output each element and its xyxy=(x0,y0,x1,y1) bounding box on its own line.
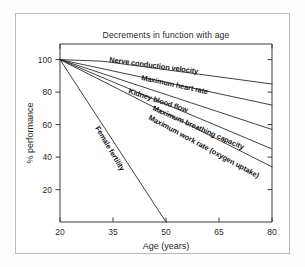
y-axis-title: % performance xyxy=(25,102,35,163)
y-tick-label-20: 20 xyxy=(43,185,53,195)
series-label-maximum-work-rate: Maximum work rate (oxygen uptake) xyxy=(147,113,261,180)
y-tick-label-60: 60 xyxy=(43,120,53,130)
x-tick-label-20: 20 xyxy=(55,227,65,237)
x-tick-label-80: 80 xyxy=(267,227,277,237)
x-tick-label-35: 35 xyxy=(108,227,118,237)
series-label-female-fertility: Female fertility xyxy=(93,124,127,173)
y-tick-label-100: 100 xyxy=(38,55,52,65)
x-axis-title: Age (years) xyxy=(143,241,190,251)
y-tick-label-80: 80 xyxy=(43,87,53,97)
x-tick-label-50: 50 xyxy=(161,227,171,237)
age-decrements-line-chart: 100 80 60 40 20 20 35 50 65 80 Age (year… xyxy=(0,0,305,267)
y-tick-label-40: 40 xyxy=(43,152,53,162)
x-tick-label-65: 65 xyxy=(214,227,224,237)
chart-title: Decrements in function with age xyxy=(103,30,230,40)
figure-container: 100 80 60 40 20 20 35 50 65 80 Age (year… xyxy=(0,0,305,267)
